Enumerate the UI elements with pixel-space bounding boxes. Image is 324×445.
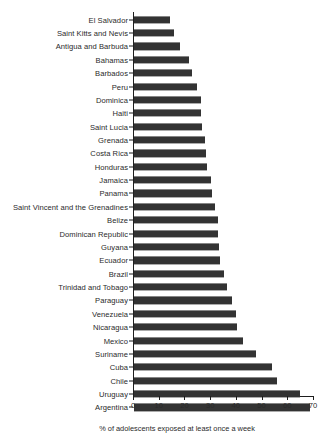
bar xyxy=(134,377,277,384)
category-label: Saint Vincent and the Grenadines xyxy=(13,202,128,211)
y-axis-tick xyxy=(129,353,133,354)
bar xyxy=(134,16,170,23)
category-label: Argentina xyxy=(95,403,128,412)
y-axis-tick xyxy=(129,153,133,154)
category-label: Belize xyxy=(107,216,128,225)
bar-row: Suriname xyxy=(0,347,324,360)
bar xyxy=(134,283,227,290)
category-label: Cuba xyxy=(110,363,128,372)
y-axis-tick xyxy=(129,46,133,47)
bar-row: Peru xyxy=(0,80,324,93)
category-label: Dominican Republic xyxy=(60,229,128,238)
x-axis-tick-label: 50 xyxy=(257,401,265,410)
x-axis-tick xyxy=(262,396,263,400)
bar-row: Barbados xyxy=(0,66,324,79)
bar xyxy=(134,203,215,210)
category-label: Dominica xyxy=(96,95,128,104)
bar xyxy=(134,123,202,130)
category-label: Saint Kitts and Nevis xyxy=(57,29,128,38)
bar xyxy=(134,43,180,50)
bar-row: Haiti xyxy=(0,107,324,120)
y-axis-tick xyxy=(129,233,133,234)
y-axis-tick xyxy=(129,246,133,247)
category-label: Trinidad and Tobago xyxy=(58,283,128,292)
bar xyxy=(134,150,206,157)
bar xyxy=(134,297,232,304)
bar-row: Saint Kitts and Nevis xyxy=(0,26,324,39)
category-label: Peru xyxy=(112,82,128,91)
category-label: Honduras xyxy=(95,162,128,171)
bar-row: Dominican Republic xyxy=(0,227,324,240)
bar xyxy=(134,96,201,103)
bar-chart: El SalvadorSaint Kitts and NevisAntigua … xyxy=(0,0,324,445)
bar xyxy=(134,324,237,331)
bar xyxy=(134,364,272,371)
bar-row: Costa Rica xyxy=(0,147,324,160)
category-label: Ecuador xyxy=(99,256,128,265)
y-axis-tick xyxy=(129,99,133,100)
bar xyxy=(134,243,219,250)
bar xyxy=(134,230,218,237)
category-label: Costa Rica xyxy=(90,149,128,158)
category-label: Barbados xyxy=(95,69,128,78)
y-axis-tick xyxy=(129,380,133,381)
y-axis-tick xyxy=(129,206,133,207)
y-axis-tick xyxy=(129,287,133,288)
bar xyxy=(134,136,205,143)
x-axis-tick xyxy=(313,396,314,400)
bar-row: Ecuador xyxy=(0,254,324,267)
bar xyxy=(134,56,189,63)
y-axis-tick xyxy=(129,327,133,328)
bar-row: Chile xyxy=(0,374,324,387)
y-axis-tick xyxy=(129,313,133,314)
y-axis-tick xyxy=(129,367,133,368)
y-axis-tick xyxy=(129,113,133,114)
y-axis-tick xyxy=(129,33,133,34)
bar xyxy=(134,310,236,317)
bar-row: Saint Vincent and the Grenadines xyxy=(0,200,324,213)
x-axis-tick-label: 40 xyxy=(232,401,240,410)
x-axis-tick-label: 0 xyxy=(131,401,135,410)
bar-row: Nicaragua xyxy=(0,321,324,334)
bar-row: Venezuela xyxy=(0,307,324,320)
category-label: Uruguay xyxy=(99,390,128,399)
category-label: Saint Lucia xyxy=(90,122,128,131)
bar-row: Jamaica xyxy=(0,173,324,186)
x-axis-tick xyxy=(210,396,211,400)
x-axis-tick-label: 20 xyxy=(180,401,188,410)
y-axis-tick xyxy=(129,126,133,127)
y-axis-tick xyxy=(129,300,133,301)
bar xyxy=(134,29,174,36)
y-axis-tick xyxy=(129,166,133,167)
x-axis-tick xyxy=(287,396,288,400)
bar-row: Antigua and Barbuda xyxy=(0,40,324,53)
bar xyxy=(134,110,201,117)
category-label: Panama xyxy=(99,189,128,198)
category-label: Haiti xyxy=(113,109,128,118)
bar-row: Honduras xyxy=(0,160,324,173)
y-axis-tick xyxy=(129,73,133,74)
category-label: Chile xyxy=(110,376,128,385)
x-axis-tick xyxy=(236,396,237,400)
category-label: Paraguay xyxy=(95,296,128,305)
category-label: Grenada xyxy=(98,136,128,145)
category-label: El Salvador xyxy=(89,15,128,24)
category-label: Nicaragua xyxy=(93,323,128,332)
category-label: Jamaica xyxy=(99,176,128,185)
bar xyxy=(134,217,218,224)
x-axis-tick xyxy=(184,396,185,400)
bar xyxy=(134,163,207,170)
bar xyxy=(134,83,197,90)
bar xyxy=(134,350,256,357)
bar-row: Brazil xyxy=(0,267,324,280)
bar-row: Grenada xyxy=(0,133,324,146)
bar xyxy=(134,257,220,264)
category-label: Venezuela xyxy=(92,309,128,318)
x-axis-tick-label: 10 xyxy=(154,401,162,410)
bar-row: Uruguay xyxy=(0,387,324,400)
bar xyxy=(134,70,192,77)
y-axis-tick xyxy=(129,394,133,395)
bar-row: Guyana xyxy=(0,240,324,253)
x-axis-tick-label: 60 xyxy=(283,401,291,410)
x-axis-title: % of adolescents exposed at least once a… xyxy=(0,424,324,434)
